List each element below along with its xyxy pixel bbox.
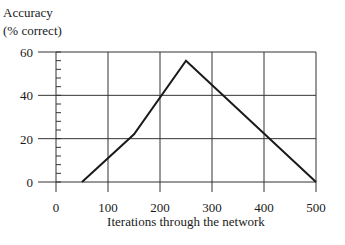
minor-ticks	[56, 52, 61, 182]
y-tick-label: 20	[20, 132, 33, 147]
x-tick-label: 400	[254, 200, 274, 215]
x-tick-label: 300	[202, 200, 222, 215]
accuracy-chart: Accuracy (% correct) 0204060 01002003004…	[0, 0, 345, 245]
x-tick-label: 100	[98, 200, 118, 215]
y-axis-label-line1: Accuracy	[3, 5, 53, 20]
y-axis-label-line2: (% correct)	[3, 23, 62, 38]
x-tick-label: 200	[150, 200, 170, 215]
x-tick-label: 500	[306, 200, 326, 215]
x-tick-labels: 0100200300400500	[53, 200, 326, 215]
x-tick-label: 0	[53, 200, 60, 215]
y-tick-labels: 0204060	[20, 45, 33, 190]
y-tick-label: 0	[27, 175, 34, 190]
y-tick-label: 60	[20, 45, 33, 60]
accuracy-line	[82, 61, 316, 182]
x-axis-label: Iterations through the network	[107, 214, 265, 229]
y-tick-label: 40	[20, 88, 33, 103]
